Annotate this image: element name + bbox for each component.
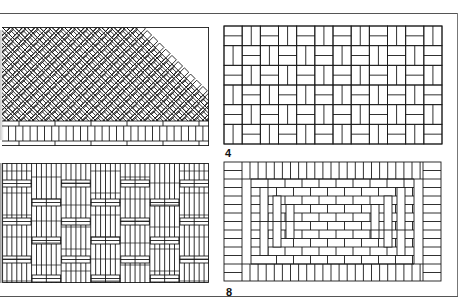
page-top-rule — [0, 13, 458, 14]
figure-label-8: 8 — [226, 286, 232, 298]
basketweave-pattern-drawing — [223, 25, 445, 147]
framed-running-bond-pattern-drawing — [223, 161, 445, 284]
herringbone-pattern-drawing — [2, 27, 210, 147]
figure-label-4: 4 — [225, 147, 231, 159]
figure-herringbone — [2, 27, 210, 147]
scan-edge-shadow — [0, 163, 4, 283]
figure-woven — [2, 163, 210, 284]
scan-edge-shadow — [0, 30, 4, 140]
page-right-rule — [457, 13, 458, 297]
woven-pattern-drawing — [2, 163, 210, 284]
figure-basketweave — [223, 25, 445, 147]
figure-framed-running-bond — [223, 161, 445, 284]
